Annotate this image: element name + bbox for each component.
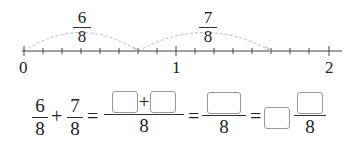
answer-box-numerator-2[interactable] xyxy=(150,91,176,113)
fraction-seven-eighths: 7 8 xyxy=(67,96,83,139)
answer-box-numerator-3[interactable] xyxy=(207,92,241,114)
jump-fraction-2: 7 8 xyxy=(199,10,217,45)
fraction-six-eighths: 6 8 xyxy=(32,96,48,139)
tick-label-1: 1 xyxy=(172,59,181,76)
tick-label-2: 2 xyxy=(325,59,334,76)
equals-sign-2: = xyxy=(188,106,199,126)
fraction-single-blank: 8 xyxy=(202,91,246,137)
plus-sign: + xyxy=(51,106,62,126)
answer-box-numerator-1[interactable] xyxy=(112,91,138,113)
fraction-sum-blanks: + 8 xyxy=(104,91,184,136)
equals-sign-3: = xyxy=(250,106,261,126)
tick-label-0: 0 xyxy=(19,59,28,76)
answer-box-whole-number[interactable] xyxy=(264,107,290,129)
answer-box-numerator-4[interactable] xyxy=(297,92,323,114)
equals-sign-1: = xyxy=(87,106,98,126)
fraction-mixed-blank: 8 xyxy=(294,91,326,137)
jump-fraction-1: 6 8 xyxy=(73,10,91,45)
arrowhead-2 xyxy=(265,47,271,51)
